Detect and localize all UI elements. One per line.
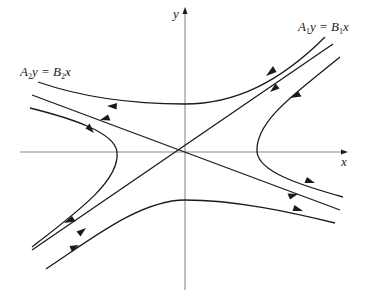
arrow-icon — [70, 245, 80, 252]
arrow-icon — [293, 205, 304, 211]
arrow-icon — [290, 91, 302, 98]
arrow-icon — [305, 177, 316, 183]
arrow-icon — [266, 66, 277, 76]
y-axis-label: y — [171, 6, 179, 21]
arrow-icon — [270, 84, 280, 93]
trajectory-right — [257, 57, 343, 197]
eigenline-1-label: A1y = B1x — [297, 19, 349, 36]
axes — [20, 7, 348, 290]
arrow-icon — [77, 228, 87, 237]
trajectory-upper — [38, 37, 325, 110]
trajectory-left — [30, 108, 117, 247]
eigenline-2-label: A2y = B2x — [19, 64, 71, 81]
x-axis-label: x — [340, 154, 347, 169]
phase-portrait-diagram: x y A2y = B2x A1y — [0, 0, 372, 306]
arrow-icon — [100, 115, 111, 121]
y-axis-arrow-icon — [183, 7, 188, 14]
arrow-icon — [107, 103, 117, 110]
arrow-icon — [288, 194, 299, 200]
eigenline-1 — [32, 44, 333, 250]
